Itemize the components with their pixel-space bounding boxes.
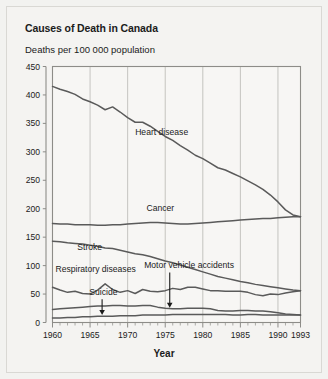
chart-figure: Causes of Death in Canada Deaths per 100… xyxy=(0,0,328,379)
x-axis-tick-label: 1993 xyxy=(291,330,310,340)
series-label-heart-disease: Heart disease xyxy=(135,127,188,137)
y-axis-tick-label: 400 xyxy=(26,90,41,100)
x-axis-tick-label: 1985 xyxy=(231,330,250,340)
x-axis-tick-label: 1990 xyxy=(268,330,287,340)
line-chart-plot: 0501001502002503003504004501960196519701… xyxy=(0,0,328,379)
y-axis-tick-label: 450 xyxy=(26,62,41,72)
y-axis-tick-label: 350 xyxy=(26,118,41,128)
y-axis-tick-label: 300 xyxy=(26,147,41,157)
x-axis-tick-label: 1960 xyxy=(43,330,62,340)
x-axis-title: Year xyxy=(0,348,328,359)
x-axis-tick-label: 1980 xyxy=(193,330,212,340)
x-axis-tick-label: 1970 xyxy=(118,330,137,340)
x-axis-tick-label: 1965 xyxy=(81,330,100,340)
series-label-suicide: Suicide xyxy=(89,287,117,297)
y-axis-tick-label: 50 xyxy=(30,289,40,299)
y-axis-tick-label: 250 xyxy=(26,175,41,185)
series-label-stroke: Stroke xyxy=(77,242,102,252)
y-axis-tick-label: 0 xyxy=(35,318,40,328)
x-axis-tick-label: 1975 xyxy=(156,330,175,340)
y-axis-tick-label: 200 xyxy=(26,204,41,214)
series-label-respiratory-diseases: Respiratory diseases xyxy=(56,264,136,274)
series-label-cancer: Cancer xyxy=(146,203,174,213)
y-axis-tick-label: 100 xyxy=(26,261,41,271)
series-label-motor-vehicle-accidents: Motor vehicle accidents xyxy=(144,260,234,270)
y-axis-tick-label: 150 xyxy=(26,232,41,242)
